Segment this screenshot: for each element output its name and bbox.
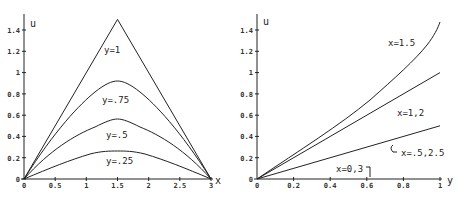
right-xtick: 1 — [438, 182, 442, 190]
right-chart: 0 0.2 0.4 0.6 0.8 1 1.2 1.4 u 0 0.2 0.4 … — [240, 14, 453, 190]
label-y-05: y=.5 — [106, 130, 128, 140]
label-x-0-3: x=0,3 — [336, 164, 363, 174]
curve-y-05 — [24, 119, 211, 179]
right-xlabel: y — [447, 175, 453, 186]
left-xtick: 3 — [209, 182, 213, 190]
right-ytick: 0 — [249, 176, 253, 184]
right-xtick: 0.2 — [287, 182, 300, 190]
arrow-x-05-25 — [391, 145, 397, 152]
right-ytick: 0.4 — [240, 133, 253, 141]
label-y-1: y=1 — [104, 45, 120, 55]
left-xtick: 2.5 — [173, 182, 186, 190]
left-chart: 0 0.2 0.4 0.6 0.8 1 1.2 1.4 u 0 0.5 1 1.… — [7, 14, 221, 190]
right-xtick: 0 — [255, 182, 259, 190]
left-ytick: 0.6 — [7, 112, 20, 120]
right-ytick: 0.2 — [240, 155, 253, 163]
right-xtick: 0.6 — [360, 182, 373, 190]
right-xtick: 0.8 — [397, 182, 410, 190]
right-xtick: 0.4 — [324, 182, 337, 190]
right-ytick: 1 — [249, 69, 253, 77]
label-x-15: x=1.5 — [388, 38, 415, 48]
left-xtick: 1.5 — [111, 182, 124, 190]
left-xtick: 0 — [22, 182, 26, 190]
arrow-x-0-3 — [366, 167, 370, 177]
label-x-1-2: x=1,2 — [397, 108, 424, 118]
left-xtick: 1 — [84, 182, 88, 190]
left-ytick: 1.4 — [7, 27, 20, 35]
figure: 0 0.2 0.4 0.6 0.8 1 1.2 1.4 u 0 0.5 1 1.… — [0, 0, 457, 202]
left-ytick: 1.2 — [7, 48, 20, 56]
label-y-025: y=.25 — [106, 156, 133, 166]
right-ytick: 1.4 — [240, 27, 253, 35]
left-xlabel: x — [215, 175, 221, 186]
left-ylabel: u — [30, 18, 36, 29]
right-ytick: 1.2 — [240, 48, 253, 56]
right-ytick: 0.6 — [240, 112, 253, 120]
left-xtick: 0.5 — [49, 182, 62, 190]
left-ytick: 0.8 — [7, 91, 20, 99]
left-ytick: 1 — [16, 69, 20, 77]
right-ytick: 0.8 — [240, 91, 253, 99]
label-y-075: y=.75 — [102, 95, 129, 105]
left-ytick: 0 — [16, 176, 20, 184]
label-x-05-25: x=.5,2.5 — [401, 148, 444, 158]
left-ytick: 0.2 — [7, 155, 20, 163]
left-xtick: 2 — [147, 182, 151, 190]
left-ytick: 0.4 — [7, 133, 20, 141]
right-ylabel: u — [263, 16, 269, 27]
